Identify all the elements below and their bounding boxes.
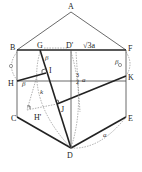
tick-circle-right [118,63,121,66]
dash-arc-center [71,52,79,148]
label-Dprime: D' [66,41,74,50]
line-JK [57,76,126,104]
edge-ED [71,117,126,148]
label-a: a [103,131,107,139]
right-angle-I [42,69,45,73]
label-frac-den: 2 [76,79,79,85]
label-beta-top: β [44,54,49,62]
label-frac-num: 3 [76,72,79,78]
label-frac-var: a [82,76,86,84]
label-beta-right: β [114,58,119,66]
label-F: F [128,44,133,53]
tick-circle-left [9,64,12,67]
label-D: D [67,151,73,160]
hexagon-folding-diagram: A B G D' √3a F β β I 3 2 a K H β k C H' … [0,0,142,172]
label-H: H [8,79,14,88]
label-K: K [128,73,134,82]
label-G: G [37,41,43,50]
dash-H'J [27,104,57,110]
label-E: E [128,114,133,123]
label-top-length: √3a [83,41,95,50]
label-beta-left: β [21,80,26,88]
label-J: J [61,105,64,114]
label-Hprime: H' [34,113,42,122]
label-B: B [10,43,15,52]
label-k: k [40,88,44,96]
label-I: I [49,66,52,75]
label-A: A [68,2,74,11]
label-C: C [11,114,16,123]
